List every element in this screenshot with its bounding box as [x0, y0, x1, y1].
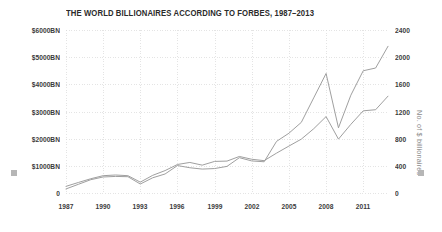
y-tick-left-3: $3000BN: [12, 108, 60, 117]
x-tick-5: 2002: [238, 202, 266, 211]
chart-figure: THE WORLD BILLIONAIRES ACCORDING TO FORB…: [0, 0, 442, 232]
y-tick-left-2: $2000BN: [12, 135, 60, 144]
x-tick-8: 2011: [349, 202, 377, 211]
series-lines: [66, 30, 388, 193]
y-tick-right-5: 2000: [395, 53, 423, 62]
y-tick-right-1: 400: [395, 162, 423, 171]
y-tick-right-4: 1600: [395, 80, 423, 89]
x-tick-2: 1993: [126, 202, 154, 211]
y-tick-left-1: $1000BN: [12, 162, 60, 171]
x-tick-0: 1987: [52, 202, 80, 211]
y-tick-left-5: $5000BN: [12, 53, 60, 62]
plot-area: [66, 30, 388, 193]
chart-title: THE WORLD BILLIONAIRES ACCORDING TO FORB…: [66, 9, 314, 18]
chart-card: THE WORLD BILLIONAIRES ACCORDING TO FORB…: [0, 0, 442, 232]
y-tick-right-6: 2400: [395, 26, 423, 35]
y-tick-right-3: 1200: [395, 108, 423, 117]
x-tick-7: 2008: [312, 202, 340, 211]
x-tick-6: 2005: [275, 202, 303, 211]
series-line-0: [66, 96, 388, 186]
y-tick-left-4: $4000BN: [12, 80, 60, 89]
y-tick-left-6: $6000BN: [12, 26, 60, 35]
x-tick-3: 1996: [164, 202, 192, 211]
y-tick-right-0: 0: [395, 189, 423, 198]
y-tick-left-0: 0: [12, 189, 60, 198]
x-tick-1: 1990: [89, 202, 117, 211]
left-axis-swatch-icon: [11, 170, 17, 176]
series-line-1: [66, 46, 388, 189]
x-tick-4: 1999: [201, 202, 229, 211]
y-tick-right-2: 800: [395, 135, 423, 144]
right-axis-swatch-icon: [418, 170, 424, 176]
